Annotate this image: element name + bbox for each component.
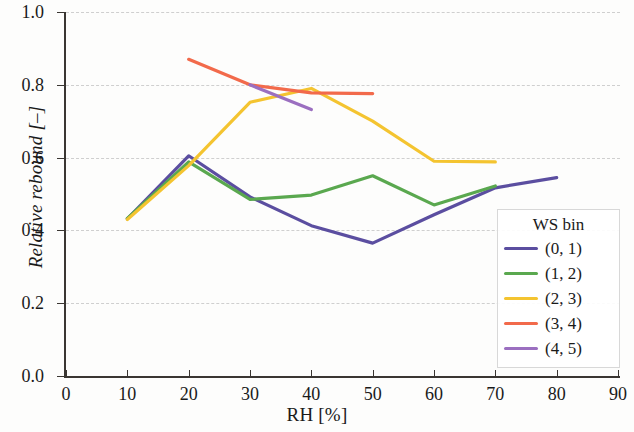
legend: WS bin (0, 1)(1, 2)(2, 3)(3, 4)(4, 5)	[497, 209, 620, 368]
x-axis-tick-label: 40	[291, 384, 331, 405]
legend-item-label: (2, 3)	[545, 289, 582, 309]
legend-item-label: (3, 4)	[545, 314, 582, 334]
legend-item[interactable]: (1, 2)	[504, 261, 613, 286]
x-axis-tick-label: 70	[475, 384, 515, 405]
y-axis-tick-label: 1.0	[0, 3, 44, 21]
chart-figure: Relative rebound [–] RH [%] 0.00.20.40.6…	[0, 0, 634, 432]
legend-item[interactable]: (4, 5)	[504, 336, 613, 361]
x-axis-tick-label: 30	[230, 384, 270, 405]
legend-swatch	[504, 272, 538, 275]
legend-swatch	[504, 297, 538, 300]
y-axis-tick-label: 0.4	[0, 221, 44, 239]
legend-swatch	[504, 347, 538, 350]
legend-item[interactable]: (3, 4)	[504, 311, 613, 336]
y-axis-tick-label: 0.0	[0, 367, 44, 385]
legend-items: (0, 1)(1, 2)(2, 3)(3, 4)(4, 5)	[504, 236, 613, 361]
x-axis-title: RH [%]	[0, 404, 634, 426]
series-line	[127, 156, 556, 243]
x-axis-tick-label: 90	[598, 384, 634, 405]
legend-swatch	[504, 247, 538, 250]
y-axis-tick-label: 0.6	[0, 149, 44, 167]
y-axis-tick-label: 0.2	[0, 294, 44, 312]
legend-title: WS bin	[504, 214, 613, 235]
x-axis-tick-label: 10	[107, 384, 147, 405]
legend-item[interactable]: (2, 3)	[504, 286, 613, 311]
y-axis-tick-label: 0.8	[0, 76, 44, 94]
legend-item-label: (1, 2)	[545, 264, 582, 284]
legend-item-label: (0, 1)	[545, 239, 582, 259]
x-axis-tick-label: 20	[169, 384, 209, 405]
x-axis-tick-label: 50	[353, 384, 393, 405]
x-axis-tick-label: 0	[46, 384, 86, 405]
legend-item-label: (4, 5)	[545, 339, 582, 359]
x-axis-tick-label: 60	[414, 384, 454, 405]
x-axis-tick-label: 80	[537, 384, 577, 405]
legend-swatch	[504, 322, 538, 325]
series-line	[189, 59, 373, 93]
legend-item[interactable]: (0, 1)	[504, 236, 613, 261]
